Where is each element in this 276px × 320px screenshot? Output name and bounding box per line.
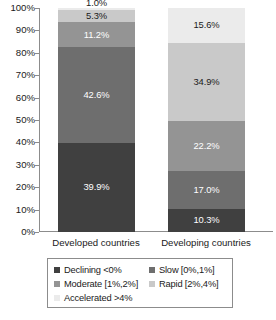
legend-swatch-icon	[149, 267, 155, 273]
bar-segment[interactable]: 5.3%	[58, 10, 135, 22]
y-axis-tick-mark	[35, 98, 39, 99]
legend-item[interactable]: Slow [0%,1%]	[149, 263, 226, 277]
legend-label: Rapid [2%,4%]	[159, 279, 219, 289]
y-axis-tick-label: 90%	[16, 25, 35, 35]
y-axis-tick-label: 100%	[10, 3, 35, 13]
y-axis-tick-label: 0%	[21, 227, 35, 237]
bar-segment-value-label: 15.6%	[193, 20, 219, 30]
chart-legend: Declining <0%Slow [0%,1%]Moderate [1%,2%…	[47, 258, 233, 308]
bar-segment-value-label: 34.9%	[193, 77, 219, 87]
bar-segment-value-label: 39.9%	[83, 182, 109, 192]
y-axis-tick-label: 50%	[16, 115, 35, 125]
bar-segment-value-label: 22.2%	[193, 141, 219, 151]
legend-swatch-icon	[54, 281, 60, 287]
legend-row: Declining <0%Slow [0%,1%]	[54, 263, 226, 277]
legend-label: Slow [0%,1%]	[159, 265, 215, 275]
y-axis: 100%90%80%70%60%50%40%30%20%10%0%	[0, 0, 38, 240]
y-axis-tick-label: 20%	[16, 182, 35, 192]
bar-segment[interactable]: 34.9%	[168, 43, 245, 121]
bar-segment[interactable]: 22.2%	[168, 121, 245, 171]
y-axis-tick-mark	[35, 165, 39, 166]
bar-segment-value-label: 17.0%	[193, 185, 219, 195]
y-axis-tick-label: 40%	[16, 137, 35, 147]
legend-label: Accelerated >4%	[64, 293, 132, 303]
bar-segment-value-label: 1.0%	[86, 0, 107, 8]
legend-item[interactable]: Rapid [2%,4%]	[149, 277, 226, 291]
bar-segment[interactable]: 11.2%	[58, 22, 135, 47]
bar-segment-value-label: 10.3%	[193, 215, 219, 225]
legend-swatch-icon	[54, 267, 60, 273]
bar-segment[interactable]: 17.0%	[168, 171, 245, 209]
y-axis-tick-label: 60%	[16, 93, 35, 103]
y-axis-tick-mark	[35, 187, 39, 188]
bar-segment[interactable]: 15.6%	[168, 8, 245, 43]
bar-segment-value-label: 5.3%	[86, 11, 107, 21]
legend-item[interactable]: Accelerated >4%	[54, 291, 150, 305]
legend-swatch-icon	[54, 295, 60, 301]
y-axis-tick-mark	[35, 8, 39, 9]
y-axis-tick-mark	[35, 53, 39, 54]
bar-segment[interactable]: 10.3%	[168, 209, 245, 232]
y-axis-tick-mark	[35, 142, 39, 143]
y-axis-tick-label: 10%	[16, 205, 35, 215]
bar-segment-value-label: 42.6%	[83, 90, 109, 100]
bars-container: 1.0%5.3%11.2%42.6%39.9% 15.6%34.9%22.2%1…	[40, 8, 273, 232]
y-axis-tick-mark	[35, 232, 39, 233]
y-axis-tick-mark	[35, 210, 39, 211]
y-axis-tick-label: 80%	[16, 48, 35, 58]
legend-row: Moderate [1%,2%]Rapid [2%,4%]	[54, 277, 226, 291]
y-axis-tick-label: 30%	[16, 160, 35, 170]
bar-segment[interactable]: 42.6%	[58, 47, 135, 142]
stacked-bar-chart: 100%90%80%70%60%50%40%30%20%10%0% 1.0%5.…	[0, 0, 276, 320]
legend-swatch-icon	[149, 281, 155, 287]
legend-row: Accelerated >4%	[54, 291, 226, 305]
legend-label: Moderate [1%,2%]	[64, 279, 138, 289]
y-axis-tick-mark	[35, 75, 39, 76]
y-axis-tick-mark	[35, 30, 39, 31]
legend-item[interactable]: Moderate [1%,2%]	[54, 277, 149, 291]
plot-area: 100%90%80%70%60%50%40%30%20%10%0% 1.0%5.…	[0, 0, 276, 240]
y-axis-tick-label: 70%	[16, 70, 35, 80]
category-label-developing: Developing countries	[146, 236, 266, 250]
bar-segment[interactable]: 39.9%	[58, 143, 135, 232]
bar-segment-value-label: 11.2%	[84, 30, 109, 40]
x-axis-category-labels: Developed countries Developing countries	[40, 236, 273, 254]
bar-developing-countries[interactable]: 15.6%34.9%22.2%17.0%10.3%	[168, 8, 245, 232]
bar-developed-countries[interactable]: 1.0%5.3%11.2%42.6%39.9%	[58, 8, 135, 232]
category-label-developed: Developed countries	[36, 236, 156, 250]
legend-label: Declining <0%	[64, 265, 122, 275]
legend-item[interactable]: Declining <0%	[54, 263, 149, 277]
y-axis-tick-mark	[35, 120, 39, 121]
